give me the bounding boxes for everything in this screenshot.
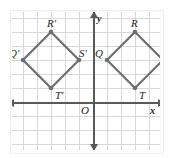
point-label-t-prime: T'	[55, 90, 63, 101]
quadrilateral-q-prime-r-prime-s-prime-t-prime	[23, 32, 79, 88]
vertex-dot	[49, 86, 54, 91]
vertex-dots	[21, 30, 160, 91]
shapes-layer	[12, 12, 160, 150]
coordinate-plane-figure: Q' R' S' T' Q R S T O x y	[0, 0, 171, 158]
vertex-dot	[105, 58, 110, 63]
quadrilateral-qrst	[107, 32, 160, 88]
vertex-dot	[133, 30, 138, 35]
vertex-dot	[133, 86, 138, 91]
point-label-r: R	[131, 18, 138, 29]
vertex-dot	[21, 58, 26, 63]
point-label-r-prime: R'	[47, 18, 56, 29]
point-label-s-prime: S'	[79, 48, 87, 59]
origin-label: O	[81, 105, 89, 116]
x-axis-label: x	[150, 106, 155, 116]
point-label-q-prime: Q'	[12, 48, 19, 59]
point-label-t: T	[139, 90, 145, 101]
point-label-q: Q	[95, 48, 103, 59]
y-axis-label: y	[97, 14, 101, 24]
vertex-dot	[49, 30, 54, 35]
plot-area: Q' R' S' T' Q R S T O x y	[12, 12, 160, 150]
